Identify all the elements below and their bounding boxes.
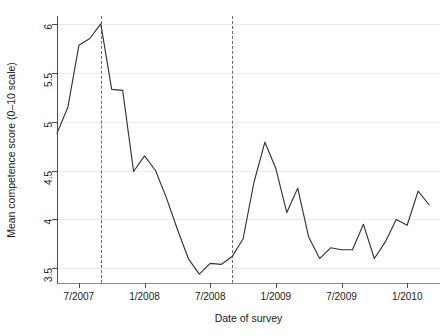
y-tick-label: 3.5	[44, 268, 54, 282]
series-polyline	[57, 24, 429, 274]
x-tick-label: 1/2010	[392, 291, 423, 302]
x-tick-label: 1/2009	[261, 291, 292, 302]
series-line-chart	[57, 16, 440, 283]
plot-area: 3.544.555.56	[57, 16, 440, 283]
x-tick-mark	[407, 283, 408, 288]
y-tick-label: 4.5	[44, 171, 54, 185]
x-tick-mark	[276, 283, 277, 288]
x-tick-mark	[79, 283, 80, 288]
chart-figure: Mean competence score (0–10 scale) 3.544…	[0, 0, 443, 336]
y-axis-title-text: Mean competence score (0–10 scale)	[5, 62, 17, 238]
y-tick-label: 6	[44, 24, 54, 30]
x-tick-label: 7/2007	[64, 291, 95, 302]
x-tick-label: 1/2008	[129, 291, 160, 302]
y-tick-label: 5	[44, 122, 54, 128]
x-tick-mark	[145, 283, 146, 288]
y-tick-label: 4	[44, 219, 54, 225]
x-axis-title: Date of survey	[57, 312, 440, 324]
y-axis-title: Mean competence score (0–10 scale)	[4, 16, 18, 283]
y-tick-label: 5.5	[44, 73, 54, 87]
x-tick-label: 7/2008	[195, 291, 226, 302]
x-tick-label: 7/2009	[326, 291, 357, 302]
x-axis-line	[57, 283, 440, 284]
y-axis-line	[57, 16, 58, 284]
x-tick-mark	[210, 283, 211, 288]
x-tick-mark	[342, 283, 343, 288]
